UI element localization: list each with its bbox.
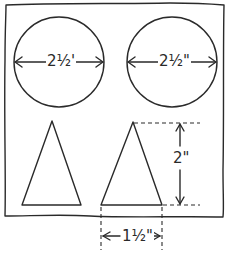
left-circle-diameter-label: 2½': [46, 54, 76, 69]
triangle-base-label: 1½": [121, 229, 154, 244]
triangle-height-label: 2": [172, 151, 190, 166]
right-circle-diameter-label: 2½": [158, 54, 191, 69]
right-triangle: [101, 122, 162, 205]
outer-frame: [5, 3, 224, 217]
diagram-svg: [0, 0, 226, 255]
diagram-canvas: 2½' 2½" 2" 1½": [0, 0, 226, 255]
left-triangle: [22, 121, 81, 205]
